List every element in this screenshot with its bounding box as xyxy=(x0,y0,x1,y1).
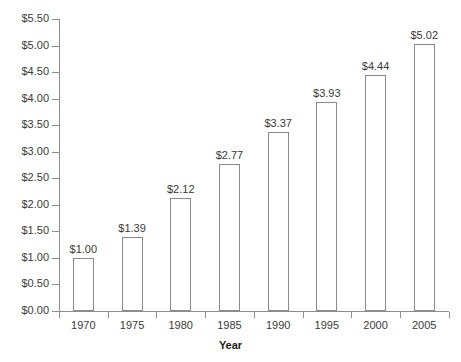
y-axis-line xyxy=(59,19,60,312)
bar-value-label: $2.12 xyxy=(156,183,205,195)
bar xyxy=(268,132,289,311)
y-axis-tick xyxy=(52,152,59,153)
bar-value-label: $1.00 xyxy=(59,243,108,255)
bar-value-label: $2.77 xyxy=(205,149,254,161)
bar xyxy=(365,75,386,311)
y-axis-tick-label: $1.00 xyxy=(21,252,49,263)
y-axis-tick-label: $0.50 xyxy=(21,278,49,289)
y-axis-tick xyxy=(52,46,59,47)
y-axis-tick-label: $1.50 xyxy=(21,225,49,236)
bar-chart: $0.00$0.50$1.00$1.50$2.00$2.50$3.00$3.50… xyxy=(0,0,461,362)
x-axis-tick xyxy=(156,312,157,318)
bar xyxy=(414,44,435,311)
y-axis-tick-label: $3.00 xyxy=(21,146,49,157)
x-axis-tick xyxy=(205,312,206,318)
y-axis-tick-label: $0.00 xyxy=(21,305,49,316)
x-axis-tick-label: 1975 xyxy=(108,319,157,331)
x-axis-tick xyxy=(400,312,401,318)
x-axis-tick-label: 1990 xyxy=(254,319,303,331)
x-axis-tick xyxy=(254,312,255,318)
y-axis-tick xyxy=(52,72,59,73)
y-axis-tick xyxy=(52,19,59,20)
x-axis-tick-label: 2005 xyxy=(400,319,449,331)
x-axis-title: Year xyxy=(0,339,461,351)
bar xyxy=(122,237,143,311)
bar-value-label: $4.44 xyxy=(351,60,400,72)
y-axis-tick xyxy=(52,231,59,232)
x-axis-tick-label: 1980 xyxy=(156,319,205,331)
x-axis-tick xyxy=(59,312,60,318)
y-axis-tick xyxy=(52,258,59,259)
bar xyxy=(73,258,94,311)
bar xyxy=(170,198,191,311)
bar-value-label: $5.02 xyxy=(400,29,449,41)
y-axis-tick xyxy=(52,125,59,126)
bar xyxy=(316,102,337,311)
x-axis-tick-label: 2000 xyxy=(351,319,400,331)
x-axis-tick xyxy=(303,312,304,318)
x-axis-tick xyxy=(449,312,450,318)
y-axis-tick-label: $5.00 xyxy=(21,40,49,51)
y-axis-tick-label: $4.50 xyxy=(21,66,49,77)
y-axis-tick xyxy=(52,284,59,285)
y-axis-tick xyxy=(52,99,59,100)
y-axis-tick xyxy=(52,311,59,312)
y-axis-tick-label: $3.50 xyxy=(21,119,49,130)
x-axis-tick-label: 1970 xyxy=(59,319,108,331)
bar-value-label: $3.93 xyxy=(303,87,352,99)
y-axis-tick-label: $2.00 xyxy=(21,199,49,210)
x-axis-tick-label: 1995 xyxy=(303,319,352,331)
x-axis-tick xyxy=(108,312,109,318)
y-axis-tick xyxy=(52,205,59,206)
x-axis-tick xyxy=(351,312,352,318)
y-axis-tick-label: $5.50 xyxy=(21,13,49,24)
bar-value-label: $1.39 xyxy=(108,222,157,234)
bar xyxy=(219,164,240,311)
x-axis-tick-label: 1985 xyxy=(205,319,254,331)
y-axis-tick-label: $4.00 xyxy=(21,93,49,104)
y-axis-tick-label: $2.50 xyxy=(21,172,49,183)
bar-value-label: $3.37 xyxy=(254,117,303,129)
y-axis-tick xyxy=(52,178,59,179)
